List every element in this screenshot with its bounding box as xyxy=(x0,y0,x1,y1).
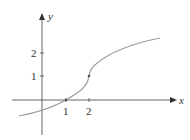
function-graph: x y 1 2 1 2 xyxy=(0,0,190,140)
x-tick-label-2: 2 xyxy=(86,105,92,117)
x-tick-label-1: 1 xyxy=(63,105,69,117)
x-axis-label: x xyxy=(178,94,184,106)
y-tick-label-1: 1 xyxy=(31,70,37,82)
x-axis: x xyxy=(12,94,184,106)
x-axis-arrow-icon xyxy=(170,97,177,103)
y-axis: y xyxy=(39,10,53,135)
x-intercept-point xyxy=(65,99,68,102)
y-axis-arrow-icon xyxy=(39,13,45,20)
vertical-tangent-point xyxy=(88,75,91,78)
y-tick-label-2: 2 xyxy=(31,47,37,59)
x-tick-2: 2 xyxy=(86,98,92,117)
y-axis-label: y xyxy=(47,10,53,22)
